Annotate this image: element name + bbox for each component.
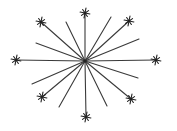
star-center (41, 96, 44, 99)
star-center (15, 59, 18, 62)
star-center (130, 98, 133, 101)
background (0, 0, 177, 131)
radial-burst-diagram (0, 0, 177, 131)
star-center (85, 116, 88, 119)
center-hub (83, 59, 86, 62)
star-center (128, 20, 131, 23)
star-center (40, 21, 43, 24)
star-center (84, 12, 87, 15)
star-center (155, 59, 158, 62)
